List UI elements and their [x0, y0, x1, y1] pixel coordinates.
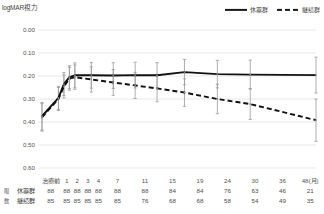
data-point-marker — [156, 88, 158, 90]
risk-table-cell: 85 — [72, 196, 83, 206]
risk-table-corner-cell — [13, 176, 41, 186]
risk-table-header-row: 治療前1234711151924303648(月) — [0, 176, 324, 186]
data-point-marker — [216, 73, 218, 75]
risk-table-cell: 68 — [186, 196, 214, 206]
plot-area: 0.000.100.200.300.400.500.60 — [0, 16, 324, 176]
gridlines-group — [38, 30, 316, 168]
risk-table-cell: 88 — [93, 186, 104, 196]
risk-table-cell: 68 — [159, 196, 187, 206]
x-axis-tick-label: 4 — [93, 176, 104, 186]
y-tick-label: 0.60 — [23, 164, 36, 171]
legend-item-kyuyaku: 休薬群 — [225, 5, 268, 14]
risk-table-cell: 21 — [296, 186, 324, 196]
x-axis-tick-label: 30 — [241, 176, 269, 186]
risk-table-cell: 84 — [159, 186, 187, 196]
x-axis-tick-label: 11 — [131, 176, 159, 186]
chart-legend: 休薬群 継続群 — [225, 5, 320, 14]
risk-table-cell: 88 — [40, 186, 61, 196]
x-axis-tick-label: 3 — [83, 176, 94, 186]
risk-table-row-label: 休薬群 — [13, 186, 41, 196]
data-point-marker — [69, 78, 71, 80]
risk-table-cell: 35 — [296, 196, 324, 206]
legend-item-keizoku: 継続群 — [277, 5, 320, 14]
y-tick-labels-group: 0.000.100.200.300.400.500.60 — [23, 26, 36, 171]
risk-table-cell: 49 — [269, 196, 297, 206]
risk-table-side-caption-spacer — [0, 176, 13, 186]
risk-table-cell: 76 — [131, 196, 159, 206]
data-point-marker — [112, 75, 114, 77]
risk-table-side-caption-char: 数 — [0, 196, 13, 206]
y-tick-label: 0.50 — [23, 141, 36, 148]
risk-table-cell: 84 — [186, 186, 214, 196]
risk-table-side-caption-char: 眼 — [0, 186, 13, 196]
legend-line-dashed-icon — [277, 6, 299, 13]
risk-table-cell: 46 — [269, 186, 297, 196]
x-axis-tick-label: 24 — [214, 176, 242, 186]
data-point-marker — [90, 79, 92, 81]
data-point-marker — [156, 74, 158, 76]
data-point-marker — [134, 74, 136, 76]
risk-table-row: 数継続群85858585858576686858544935 — [0, 196, 324, 206]
risk-table-cell: 85 — [40, 196, 61, 206]
chart-root: logMAR視力 休薬群 継続群 0.000.100.200.300.400.5… — [0, 0, 324, 214]
y-tick-label: 0.30 — [23, 95, 36, 102]
x-axis-tick-label: 1 — [61, 176, 72, 186]
y-tick-label: 0.10 — [23, 49, 36, 56]
x-axis-tick-label: 15 — [159, 176, 187, 186]
data-point-marker — [74, 74, 76, 76]
risk-table-cell: 76 — [214, 186, 242, 196]
data-point-marker — [63, 85, 65, 87]
risk-table-cell: 85 — [61, 196, 72, 206]
y-tick-label: 0.00 — [23, 26, 36, 33]
x-axis-tick-label: 7 — [104, 176, 132, 186]
risk-table-cell: 85 — [83, 196, 94, 206]
x-axis-tick-label: 治療前 — [40, 176, 61, 186]
risk-table-cell: 85 — [104, 196, 132, 206]
data-point-marker — [58, 98, 60, 100]
data-point-marker — [63, 83, 65, 85]
data-point-marker — [249, 74, 251, 76]
data-point-marker — [112, 82, 114, 84]
risk-table: 治療前1234711151924303648(月)眼休薬群88888888888… — [0, 176, 324, 214]
data-point-marker — [184, 71, 186, 73]
series-lines-group — [42, 72, 316, 120]
y-tick-label: 0.40 — [23, 118, 36, 125]
risk-table-row-label: 継続群 — [13, 196, 41, 206]
x-axis-tick-label: 36 — [269, 176, 297, 186]
data-point-marker — [69, 76, 71, 78]
data-point-marker — [74, 76, 76, 78]
risk-table-cell: 88 — [72, 186, 83, 196]
risk-table-grid: 治療前1234711151924303648(月)眼休薬群88888888888… — [0, 176, 324, 206]
series-line-2 — [42, 77, 316, 120]
legend-line-solid-icon — [225, 6, 247, 13]
x-axis-tick-label: 2 — [72, 176, 83, 186]
x-axis-tick-label: 19 — [186, 176, 214, 186]
risk-table-cell: 85 — [93, 196, 104, 206]
risk-table-row: 眼休薬群88888888888888848476634621 — [0, 186, 324, 196]
risk-table-cell: 54 — [241, 196, 269, 206]
risk-table-cell: 88 — [61, 186, 72, 196]
risk-table-cell: 88 — [104, 186, 132, 196]
risk-table-cell: 88 — [131, 186, 159, 196]
data-point-marker — [249, 103, 251, 105]
y-axis-title: logMAR視力 — [2, 2, 38, 12]
data-point-marker — [41, 117, 43, 119]
data-point-marker — [216, 98, 218, 100]
legend-label-keizoku: 継続群 — [302, 5, 320, 14]
data-point-marker — [134, 85, 136, 87]
risk-table-cell: 58 — [214, 196, 242, 206]
risk-table-cell: 63 — [241, 186, 269, 196]
data-point-marker — [315, 119, 317, 121]
y-tick-label: 0.20 — [23, 72, 36, 79]
data-point-marker — [315, 74, 317, 76]
data-point-marker — [90, 74, 92, 76]
x-axis-tick-label: 48(月) — [296, 176, 324, 186]
data-markers-group — [41, 71, 317, 121]
legend-label-kyuyaku: 休薬群 — [250, 5, 268, 14]
line-chart-svg: 0.000.100.200.300.400.500.60 — [0, 16, 324, 176]
risk-table-cell: 88 — [83, 186, 94, 196]
data-point-marker — [184, 92, 186, 94]
